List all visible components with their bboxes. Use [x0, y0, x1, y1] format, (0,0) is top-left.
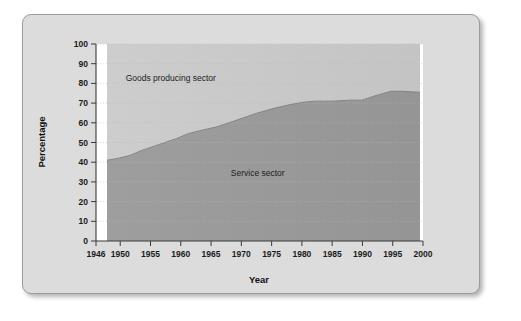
x-axis: 1946195019551960196519701975198019851990… [87, 241, 433, 259]
series-label-goods-producing-sector: Goods producing sector [126, 73, 216, 83]
x-axis-tick-label: 1950 [111, 249, 130, 259]
series-label-service-sector: Service sector [231, 168, 285, 178]
x-axis-tick-label: 1965 [202, 249, 221, 259]
x-axis-tick-label: 1960 [171, 249, 190, 259]
x-axis-tick-label: 1970 [232, 249, 251, 259]
y-axis-tick-label: 50 [79, 138, 89, 148]
y-axis-tick-label: 0 [83, 236, 88, 246]
x-axis-tick-label: 1946 [87, 249, 106, 259]
y-axis: 0102030405060708090100 [74, 39, 96, 246]
y-axis-tick-label: 60 [79, 118, 89, 128]
y-axis-tick-label: 40 [79, 157, 89, 167]
area-chart: 0102030405060708090100 19461950195519601… [0, 0, 521, 321]
x-axis-tick-label: 1980 [292, 249, 311, 259]
figure-root: 0102030405060708090100 19461950195519601… [0, 0, 521, 321]
y-axis-tick-label: 20 [79, 197, 89, 207]
y-axis-tick-label: 30 [79, 177, 89, 187]
y-axis-tick-label: 70 [79, 98, 89, 108]
x-axis-tick-label: 2000 [414, 249, 433, 259]
x-axis-tick-label: 1995 [383, 249, 402, 259]
y-axis-tick-label: 90 [79, 59, 89, 69]
y-axis-title: Percentage [36, 116, 47, 167]
x-axis-title: Year [249, 274, 269, 285]
x-axis-tick-label: 1990 [353, 249, 372, 259]
x-axis-tick-label: 1955 [141, 249, 160, 259]
x-axis-tick-label: 1985 [323, 249, 342, 259]
y-axis-tick-label: 10 [79, 216, 89, 226]
y-axis-tick-label: 100 [74, 39, 88, 49]
x-axis-tick-label: 1975 [262, 249, 281, 259]
y-axis-tick-label: 80 [79, 78, 89, 88]
